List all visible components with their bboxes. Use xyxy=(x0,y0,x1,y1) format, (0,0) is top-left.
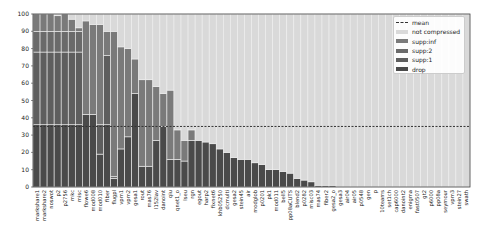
bar-segment-not-compressed xyxy=(216,14,223,149)
x-tick-label: gesa2_o xyxy=(330,190,337,211)
bar-segment-supp-inf xyxy=(61,14,68,31)
x-tick-label: vpm2 xyxy=(125,190,132,205)
y-tick-label: 30 xyxy=(21,131,29,138)
bar-segment-drop xyxy=(47,125,54,187)
legend-label: drop xyxy=(412,66,426,73)
bar-segment-not-compressed xyxy=(343,14,350,187)
y-tick-label: 80 xyxy=(21,45,29,52)
bar-segment-supp-inf xyxy=(181,140,188,161)
bar-segment-drop xyxy=(273,170,280,187)
x-tick-label: mas74 xyxy=(315,189,321,207)
bar-segment-not-compressed xyxy=(259,14,266,165)
bar-segment-drop xyxy=(280,171,287,187)
x-tick-label: stein45 xyxy=(238,190,244,209)
x-tick-label: flugpl xyxy=(111,190,118,205)
bar-segment-drop xyxy=(181,161,188,187)
x-tick-label: misc03 xyxy=(308,190,314,209)
legend-item: supp:inf xyxy=(396,37,462,46)
bar-segment-drop xyxy=(174,159,181,187)
bar-segment-not-compressed xyxy=(202,14,209,142)
x-tick-label: p0282 xyxy=(301,190,308,207)
bar-segment-drop xyxy=(139,166,146,187)
bar-segment-not-compressed xyxy=(167,14,174,90)
bar-segment-not-compressed xyxy=(132,14,139,59)
x-tick-label: qiu xyxy=(167,190,174,198)
bar-segment-not-compressed xyxy=(287,14,294,173)
y-tick-label: 20 xyxy=(21,148,29,155)
bar-segment-not-compressed xyxy=(273,14,280,170)
x-tick-label: flowe6 xyxy=(83,190,89,207)
bar-segment-supp-inf xyxy=(146,80,153,166)
bar-segment-not-compressed xyxy=(68,14,75,19)
bar-segment-drop xyxy=(195,140,202,187)
x-tick-label: fiber xyxy=(104,189,110,202)
x-tick-label: mod008 xyxy=(90,190,96,211)
bar-segment-supp-2 xyxy=(33,31,40,52)
bar-segment-not-compressed xyxy=(315,14,322,185)
bar-segment-not-compressed xyxy=(322,14,329,185)
x-tick-label: pk1 xyxy=(266,190,273,200)
bar-segment-supp-inf xyxy=(103,31,110,55)
bar-segment-supp-inf xyxy=(33,14,40,31)
x-tick-label: noswot xyxy=(48,190,54,209)
bar-segment-supp-1 xyxy=(47,52,54,125)
bar-segment-drop xyxy=(244,159,251,187)
x-tick-label: fixnet6 xyxy=(210,190,216,208)
legend-item: drop xyxy=(396,64,462,73)
bar-segment-drop xyxy=(68,125,75,187)
bar-segment-drop xyxy=(103,125,110,187)
legend-label: supp:inf xyxy=(412,38,436,45)
bar-segment-not-compressed xyxy=(89,14,96,24)
bar-segment-drop xyxy=(252,163,259,187)
bar-segment-supp-2 xyxy=(47,31,54,52)
bar-segment-not-compressed xyxy=(146,14,153,80)
bar-segment-supp-inf xyxy=(167,90,174,159)
x-tick-label: mod011 xyxy=(273,190,279,211)
bar-segment-not-compressed xyxy=(209,14,216,144)
bar-segment-not-compressed xyxy=(280,14,287,171)
bar-segment-supp-inf xyxy=(188,130,195,140)
x-tick-label: vpm3 xyxy=(449,190,456,205)
x-tick-label: gt2 xyxy=(421,190,428,199)
x-tick-label: air xyxy=(245,189,251,197)
x-tick-label: gesa3 xyxy=(337,190,344,206)
bar-segment-supp-inf xyxy=(68,19,75,31)
x-tick-label: blend2 xyxy=(294,190,300,208)
bar-segment-drop xyxy=(160,126,167,187)
x-tick-label: fiber2 xyxy=(323,190,329,205)
x-tick-label: markshare1 xyxy=(34,190,40,221)
x-tick-label: cap6000 xyxy=(393,190,400,213)
y-tick-label: 100 xyxy=(18,10,30,17)
bar-segment-not-compressed xyxy=(111,14,118,31)
x-tick-label: air05 xyxy=(351,190,357,203)
bar-segment-not-compressed xyxy=(139,14,146,80)
x-tick-label: seymour xyxy=(442,189,449,212)
bar-segment-not-compressed xyxy=(357,14,364,187)
bar-segment-not-compressed xyxy=(181,14,188,140)
y-tick-label: 60 xyxy=(21,79,29,86)
x-tick-label: air04 xyxy=(344,189,350,203)
bar-segment-drop xyxy=(146,166,153,187)
x-tick-label: p0548 xyxy=(358,190,365,207)
x-tick-label: enigma xyxy=(407,190,414,209)
legend-label: supp:2 xyxy=(412,47,432,54)
bar-segment-not-compressed xyxy=(308,14,315,182)
bar-segment-supp-1 xyxy=(40,52,47,125)
bar-segment-not-compressed xyxy=(103,14,110,31)
bar-segment-not-compressed xyxy=(96,14,103,24)
bar-segment-not-compressed xyxy=(174,14,181,130)
x-tick-label: stein27 xyxy=(456,190,462,209)
bar-segment-not-compressed xyxy=(223,14,230,152)
x-tick-label: gesa2 xyxy=(231,190,238,206)
bar-segment-drop xyxy=(230,158,237,187)
bar-segment-supp-inf xyxy=(118,47,125,149)
x-tick-label: rout xyxy=(139,190,145,201)
bar-segment-supp-inf xyxy=(40,14,47,31)
legend-swatch xyxy=(396,58,408,62)
bar-segment-drop xyxy=(61,125,68,187)
bar-segment-drop xyxy=(96,154,103,187)
x-tick-label: pp08aCUTS xyxy=(287,190,294,220)
bar-segment-drop xyxy=(82,114,89,187)
bar-segment-drop xyxy=(54,125,61,187)
legend-label: supp:1 xyxy=(412,56,432,63)
